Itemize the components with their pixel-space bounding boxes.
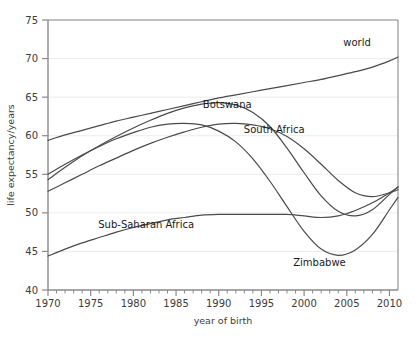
grid-lines	[48, 20, 398, 251]
x-tick-label: 2000	[291, 298, 316, 309]
x-axis-title: year of birth	[194, 315, 253, 326]
y-tick-label: 65	[25, 92, 38, 103]
x-axis-tick-labels: 197019751980198519901995200020052010	[35, 298, 402, 309]
caption-text-sliver	[0, 330, 420, 339]
x-tick-label: 1980	[121, 298, 146, 309]
x-tick-label: 1985	[163, 298, 188, 309]
series-label-zimbabwe: Zimbabwe	[293, 257, 346, 268]
x-tick-label: 1995	[249, 298, 274, 309]
y-tick-label: 55	[25, 169, 38, 180]
series-label-south-africa: South Africa	[244, 124, 305, 135]
y-axis-ticks	[42, 20, 48, 290]
x-tick-label: 1975	[78, 298, 103, 309]
y-axis-title: life expectancy/years	[5, 104, 16, 206]
y-tick-label: 45	[25, 246, 38, 257]
series-line-south-africa	[48, 123, 398, 196]
y-axis-tick-labels: 4045505560657075	[25, 15, 38, 296]
y-tick-label: 60	[25, 130, 38, 141]
series-label-botswana: Botswana	[203, 99, 252, 110]
series-label-world: world	[343, 37, 371, 48]
series-line-botswana	[48, 103, 398, 216]
y-tick-label: 50	[25, 207, 38, 218]
x-tick-label: 2010	[377, 298, 402, 309]
x-tick-label: 1970	[35, 298, 60, 309]
y-tick-label: 40	[25, 285, 38, 296]
figure-container: 197019751980198519901995200020052010 404…	[0, 0, 420, 339]
life-expectancy-line-chart: 197019751980198519901995200020052010 404…	[0, 0, 420, 339]
series-label-sub-saharan-africa: Sub-Saharan Africa	[98, 219, 194, 230]
series-inline-labels: worldBotswanaSouth AfricaZimbabweSub-Sah…	[98, 37, 371, 268]
series-line-zimbabwe	[48, 123, 398, 255]
x-tick-label: 1990	[206, 298, 231, 309]
y-tick-label: 70	[25, 53, 38, 64]
x-tick-label: 2005	[334, 298, 359, 309]
plot-frame	[48, 20, 398, 290]
y-tick-label: 75	[25, 15, 38, 26]
x-axis-ticks	[48, 290, 389, 296]
